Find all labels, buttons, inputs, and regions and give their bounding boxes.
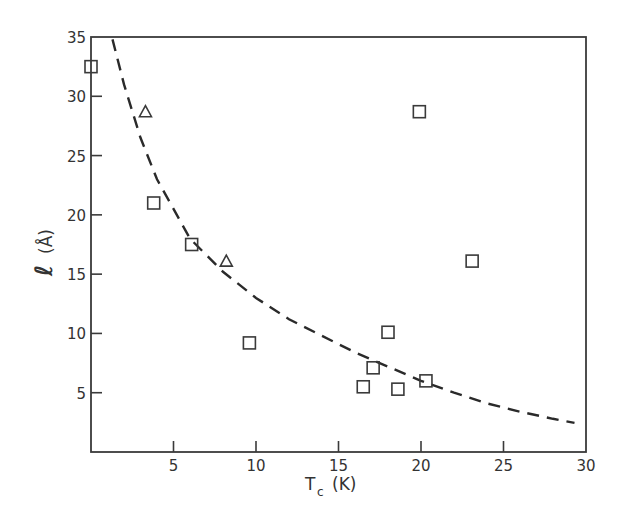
square-marker — [382, 326, 394, 338]
x-axis-label-unit: (K) — [332, 474, 356, 494]
x-tick-label: 10 — [246, 457, 265, 475]
plot-frame — [91, 37, 586, 452]
axis-ticks: 510152025305101520253035 — [67, 29, 596, 475]
y-axis-label-unit: (Å) — [35, 229, 56, 254]
x-tick-label: 5 — [169, 457, 179, 475]
x-tick-label: 30 — [576, 457, 595, 475]
square-marker — [243, 337, 255, 349]
triangle-marker — [220, 255, 232, 266]
scatter-chart: 510152025305101520253035 T c (K) ℓ (Å) — [0, 0, 623, 528]
y-tick-label: 10 — [67, 325, 86, 343]
square-marker — [148, 197, 160, 209]
x-axis-label-main: T — [304, 474, 316, 494]
y-tick-label: 30 — [67, 88, 86, 106]
square-marker — [413, 106, 425, 118]
square-marker — [357, 381, 369, 393]
x-axis-label-sub: c — [317, 485, 324, 499]
y-axis-label-symbol: ℓ — [30, 265, 58, 277]
square-marker — [466, 255, 478, 267]
square-marker — [367, 362, 379, 374]
y-tick-label: 35 — [67, 29, 86, 47]
square-marker — [392, 383, 404, 395]
fit-curve-path — [113, 39, 575, 423]
x-tick-label: 15 — [329, 457, 348, 475]
y-tick-label: 15 — [67, 266, 86, 284]
y-tick-label: 25 — [67, 148, 86, 166]
data-markers — [85, 61, 478, 396]
triangle-marker — [139, 106, 151, 117]
y-tick-label: 20 — [67, 207, 86, 225]
x-tick-label: 20 — [411, 457, 430, 475]
fit-curve — [113, 39, 575, 423]
y-tick-label: 5 — [76, 385, 86, 403]
x-tick-label: 25 — [494, 457, 513, 475]
